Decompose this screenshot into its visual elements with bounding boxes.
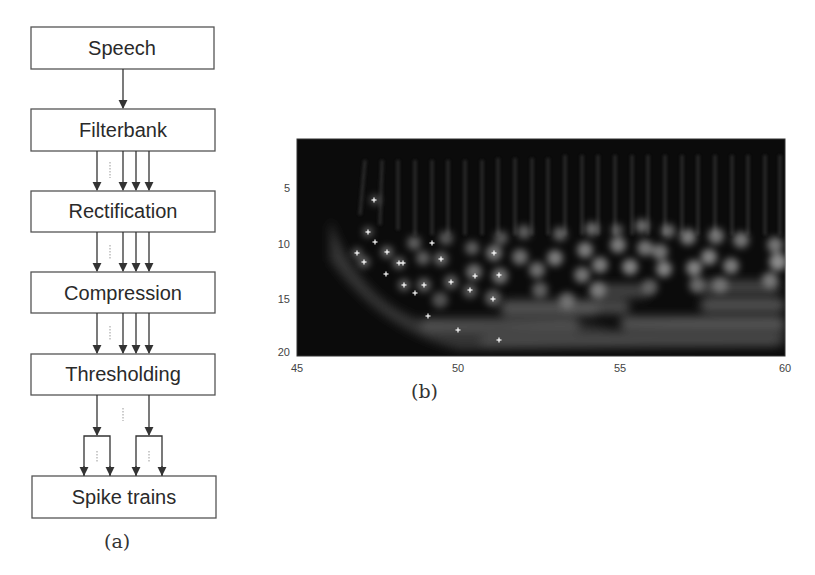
y-tick-label: 15	[278, 293, 290, 305]
x-tick-label: 50	[452, 362, 464, 374]
block-label-compression: Compression	[64, 282, 182, 304]
caption-b: (b)	[411, 380, 438, 402]
y-tick-label: 20	[278, 346, 290, 358]
x-tick-label: 45	[291, 362, 303, 374]
x-axis: 45 50 55 60	[291, 362, 791, 374]
block-diagram: Speech Filterbank Rectification Compress…	[0, 0, 260, 575]
x-tick-label: 60	[779, 362, 791, 374]
y-axis: 5 10 15 20	[278, 182, 290, 358]
block-label-thresholding: Thresholding	[65, 363, 181, 385]
x-tick-label: 55	[614, 362, 626, 374]
split-bracket	[136, 436, 162, 476]
block-label-spike-trains: Spike trains	[72, 486, 177, 508]
caption-a: (a)	[104, 530, 130, 552]
block-label-filterbank: Filterbank	[79, 119, 168, 141]
heatmap-chart: 5 10 15 20 45 50 55 60	[260, 0, 815, 575]
y-tick-label: 10	[278, 238, 290, 250]
block-label-speech: Speech	[88, 37, 156, 59]
block-label-rectification: Rectification	[69, 200, 178, 222]
y-tick-label: 5	[284, 182, 290, 194]
panel-b-heatmap: 5 10 15 20 45 50 55 60 (b)	[260, 0, 815, 575]
panel-a-block-diagram: Speech Filterbank Rectification Compress…	[0, 0, 260, 575]
split-bracket	[84, 436, 110, 476]
